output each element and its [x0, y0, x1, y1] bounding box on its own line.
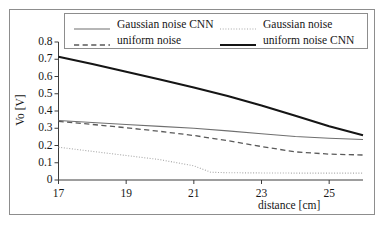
legend-item-uniform-noise-cnn: uniform noise CNN — [219, 33, 354, 49]
y-axis-tick-label: 0.7 — [19, 53, 53, 65]
legend: Gaussian noise CNN Gaussian noise unifor… — [64, 13, 368, 49]
legend-swatch-uniform-noise-cnn — [219, 36, 257, 46]
legend-item-gaussian-noise: Gaussian noise — [219, 17, 332, 33]
x-axis-tick-label: 21 — [174, 188, 214, 200]
x-axis-tick-label: 19 — [106, 188, 146, 200]
y-axis-tick-label: 0.2 — [19, 140, 53, 152]
legend-swatch-uniform-noise — [73, 36, 111, 46]
legend-item-uniform-noise: uniform noise — [73, 33, 181, 49]
x-axis-title: distance [cm] — [258, 199, 320, 211]
y-axis-tick-label: 0.3 — [19, 122, 53, 134]
y-axis-tick-label: 0.8 — [19, 36, 53, 48]
x-axis-tick-label: 17 — [39, 188, 79, 200]
y-axis-tick-label: 0.1 — [19, 157, 53, 169]
x-axis-tick-label: 25 — [309, 188, 349, 200]
series-line-gaussian-noise — [59, 147, 364, 173]
y-axis-tick-label: 0.6 — [19, 71, 53, 83]
y-axis-tick-label: 0 — [19, 174, 53, 186]
legend-swatch-gaussian-noise-cnn — [73, 20, 111, 30]
y-axis-tick-label: 0.4 — [19, 105, 53, 117]
x-axis-tick-label: 23 — [242, 188, 282, 200]
legend-label-gaussian-noise: Gaussian noise — [263, 19, 332, 31]
legend-swatch-gaussian-noise — [219, 20, 257, 30]
legend-label-gaussian-noise-cnn: Gaussian noise CNN — [117, 19, 213, 31]
legend-item-gaussian-noise-cnn: Gaussian noise CNN — [73, 17, 213, 33]
legend-label-uniform-noise: uniform noise — [117, 35, 181, 47]
y-axis-tick-label: 0.5 — [19, 88, 53, 100]
chart-figure: Vo [V] distance [cm] Gaussian noise CNN … — [0, 0, 386, 227]
legend-label-uniform-noise-cnn: uniform noise CNN — [263, 35, 354, 47]
